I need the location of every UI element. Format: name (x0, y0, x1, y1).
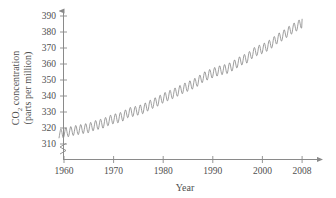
y-tick-label-380: 380 (42, 27, 57, 37)
y-axis-title-rest: concentration (10, 51, 21, 108)
x-tick-label-1960: 1960 (55, 166, 74, 176)
x-tick-label-2008: 2008 (293, 166, 312, 176)
y-tick-label-350: 350 (42, 75, 57, 85)
y-axis-title-co: CO (10, 111, 21, 125)
y-tick-label-360: 360 (42, 59, 57, 69)
chart-figure: 390 380 370 360 350 340 330 320 310 1960… (0, 0, 336, 198)
y-tick-label-340: 340 (42, 91, 57, 101)
y-axis-title-units: (parts per million) (22, 52, 34, 125)
y-tick-label-310: 310 (42, 139, 57, 149)
y-tick-label-370: 370 (42, 43, 57, 53)
x-axis-title: Year (176, 182, 195, 193)
x-tick-label-1990: 1990 (203, 166, 222, 176)
y-tick-label-320: 320 (42, 123, 57, 133)
y-tick-label-390: 390 (42, 11, 57, 21)
y-axis-title: CO2 concentration (parts per million) (10, 51, 34, 125)
x-tick-label-1980: 1980 (154, 166, 173, 176)
y-tick-label-330: 330 (42, 107, 57, 117)
x-tick-label-1970: 1970 (104, 166, 123, 176)
x-tick-label-2000: 2000 (253, 166, 272, 176)
chart-plot-area: 390 380 370 360 350 340 330 320 310 1960… (0, 0, 336, 198)
